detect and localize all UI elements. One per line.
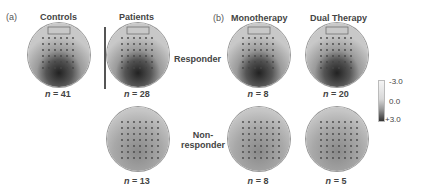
n-value: = 5: [334, 176, 347, 186]
row-label-nonresponder: Non- responder: [178, 130, 228, 150]
n-value: = 20: [331, 89, 349, 99]
topomap-dual-therapy-nonresponder: [305, 106, 369, 172]
topomap-monotherapy-nonresponder: [227, 106, 291, 172]
topomap-monotherapy-responder: [227, 22, 291, 88]
n-symbol: n: [248, 176, 254, 186]
n-label-patients-responder: n = 28: [107, 89, 167, 99]
n-symbol: n: [323, 89, 329, 99]
topomap-patients-nonresponder: [106, 106, 170, 172]
colorbar-tick-mid: 0.0: [389, 97, 400, 106]
n-symbol: n: [248, 89, 254, 99]
colorbar: [378, 80, 385, 122]
n-label-dual-responder: n = 20: [306, 89, 366, 99]
n-symbol: n: [45, 89, 51, 99]
n-value: = 41: [53, 89, 71, 99]
n-symbol: n: [124, 89, 130, 99]
n-value: = 28: [132, 89, 150, 99]
row-label-nonresponder-line1: Non-: [178, 130, 228, 140]
topomap-controls: [27, 22, 91, 88]
n-label-dual-nonresponder: n = 5: [306, 176, 366, 186]
column-header-controls: Controls: [40, 12, 77, 22]
colorbar-tick-bottom: +3.0: [385, 115, 401, 124]
topomap-patients-responder: [106, 22, 170, 88]
row-label-responder: Responder: [174, 54, 221, 64]
colorbar-tick-top: -3.0: [389, 77, 403, 86]
n-label-mono-nonresponder: n = 8: [228, 176, 288, 186]
n-symbol: n: [326, 176, 332, 186]
topomap-dual-therapy-responder: [305, 22, 369, 88]
n-value: = 8: [256, 176, 269, 186]
n-label-patients-nonresponder: n = 13: [107, 176, 167, 186]
panel-a-label: (a): [6, 12, 17, 22]
row-label-nonresponder-line2: responder: [178, 140, 228, 150]
n-label-controls: n = 41: [28, 89, 88, 99]
n-value: = 8: [256, 89, 269, 99]
n-value: = 13: [132, 176, 150, 186]
n-symbol: n: [124, 176, 130, 186]
column-header-patients: Patients: [119, 12, 154, 22]
panel-b-label: (b): [213, 13, 224, 23]
n-label-mono-responder: n = 8: [228, 89, 288, 99]
